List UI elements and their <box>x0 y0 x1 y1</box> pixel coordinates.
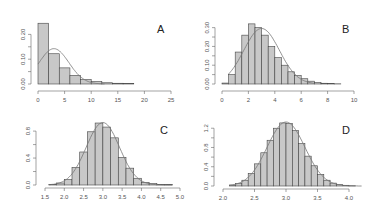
histogram-bar <box>112 83 123 84</box>
x-tick-label: 2.5 <box>79 194 88 200</box>
histogram-bar <box>268 46 275 84</box>
x-tick-label: 1.5 <box>41 194 50 200</box>
panel-b-label: B <box>342 23 349 35</box>
histogram-bar <box>222 83 229 84</box>
x-tick-label: 4.5 <box>157 194 166 200</box>
y-tick-label: 0.30 <box>204 21 210 33</box>
histogram-bar <box>229 75 236 84</box>
histogram-bar <box>235 52 242 84</box>
histogram-bar <box>286 123 292 186</box>
x-tick-label: 4.0 <box>345 195 354 201</box>
histogram-bar <box>292 131 298 186</box>
histogram-bar <box>262 35 269 84</box>
panel-a: 05101520250.000.100.20 <box>20 23 175 103</box>
histogram-bar <box>111 138 119 185</box>
x-tick-label: 10 <box>351 97 358 103</box>
x-tick-label: 3.5 <box>313 195 322 201</box>
histogram-bar <box>242 35 249 84</box>
histogram-bar <box>305 156 311 186</box>
histogram-bar <box>267 140 273 186</box>
x-tick-label: 2.0 <box>219 195 228 201</box>
x-tick-label: 20 <box>141 97 148 103</box>
histogram-bar <box>275 58 282 84</box>
histogram-bar <box>273 128 279 186</box>
histogram-bar <box>72 167 80 185</box>
x-tick-label: 4.0 <box>137 194 146 200</box>
histogram-bar <box>255 164 261 186</box>
panel-c-label: C <box>160 124 168 136</box>
y-tick-label: 0.4 <box>25 153 31 162</box>
histogram-bar <box>118 157 126 185</box>
y-tick-label: 0.8 <box>203 143 209 152</box>
y-tick-label: 0.8 <box>25 126 31 135</box>
histogram-bar <box>255 28 262 84</box>
panel-a-label: A <box>157 23 165 35</box>
x-tick-label: 2 <box>247 97 251 103</box>
y-tick-label: 0.10 <box>204 59 210 71</box>
x-tick-label: 3.0 <box>282 195 291 201</box>
histogram-bar <box>280 123 286 186</box>
y-tick-label: 0.0 <box>25 180 31 189</box>
histogram-bar <box>281 65 288 84</box>
y-tick-label: 0.20 <box>20 28 26 40</box>
x-tick-label: 25 <box>168 97 175 103</box>
y-tick-label: 0.0 <box>203 181 209 190</box>
panel-d-label: D <box>342 124 350 136</box>
histogram-bar <box>70 75 81 84</box>
histogram-grid: 05101520250.000.100.20 02468100.000.100.… <box>0 0 381 220</box>
y-tick-label: 1.2 <box>203 123 209 132</box>
x-tick-label: 15 <box>114 97 121 103</box>
histogram-bar <box>314 82 321 84</box>
histogram-bar <box>321 83 328 84</box>
histogram-bar <box>103 127 111 185</box>
histogram-bar <box>134 178 142 185</box>
x-tick-label: 3.5 <box>118 194 127 200</box>
x-tick-label: 8 <box>326 97 330 103</box>
histogram-bar <box>299 144 305 186</box>
x-tick-label: 0 <box>220 97 224 103</box>
histogram-bar <box>126 168 134 185</box>
histogram-bar <box>59 68 70 84</box>
histogram-bar <box>288 72 295 84</box>
panel-d: 2.02.53.03.54.00.00.40.81.2 <box>203 122 362 201</box>
x-tick-label: 10 <box>88 97 95 103</box>
x-tick-label: 5.0 <box>176 194 185 200</box>
histogram-bar <box>95 123 103 185</box>
histogram-bar <box>87 132 95 185</box>
histogram-bar <box>38 23 49 84</box>
panel-b: 02468100.000.100.200.30 <box>204 21 358 103</box>
y-tick-label: 0.4 <box>203 162 209 171</box>
y-tick-label: 0.10 <box>20 53 26 65</box>
x-tick-label: 5 <box>63 97 67 103</box>
x-tick-label: 3.0 <box>99 194 108 200</box>
histogram-bar <box>80 152 88 185</box>
x-tick-label: 4 <box>273 97 277 103</box>
x-tick-label: 0 <box>36 97 40 103</box>
histogram-bar <box>248 173 254 186</box>
y-tick-label: 0.00 <box>204 78 210 90</box>
x-tick-label: 6 <box>300 97 304 103</box>
y-tick-label: 0.20 <box>204 40 210 52</box>
x-tick-label: 2.0 <box>60 194 69 200</box>
histogram-bar <box>49 54 60 84</box>
y-tick-label: 0.00 <box>20 78 26 90</box>
x-tick-label: 2.5 <box>250 195 259 201</box>
